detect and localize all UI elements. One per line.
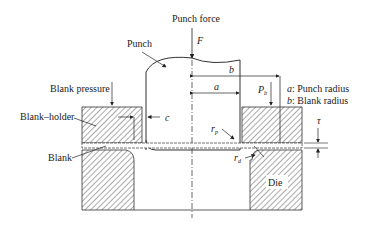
- die-label: Die: [268, 177, 283, 188]
- legend-item: b: Blank radius: [287, 95, 348, 106]
- thickness-label: τ: [317, 115, 321, 126]
- holder-pressure-label: Pb: [257, 84, 267, 96]
- blank-holder-label: Blank–holder: [20, 111, 75, 122]
- punch-radius-leader: [222, 129, 234, 139]
- force-symbol: F: [196, 35, 204, 46]
- dim-b-label: b: [229, 64, 234, 75]
- blank-holder-left: [82, 107, 142, 143]
- deep-drawing-diagram: Punch force F Punch Blank pressure Blank…: [0, 0, 366, 228]
- blank-label: Blank: [48, 152, 72, 163]
- die-radius-label: rd: [234, 152, 242, 164]
- legend: a: Punch radius b: Blank radius: [287, 83, 349, 106]
- punch-label: Punch: [127, 38, 152, 49]
- dim-a-label: a: [214, 81, 219, 92]
- blank-sheet: [82, 143, 302, 148]
- punch-radius-label: rp: [211, 123, 218, 135]
- blank-holder-right: [242, 107, 302, 143]
- punch: [146, 57, 240, 150]
- clearance-label: c: [165, 112, 170, 123]
- legend-item: a: Punch radius: [287, 83, 349, 94]
- die-left: [82, 150, 134, 210]
- punch-force-label: Punch force: [172, 13, 221, 24]
- blank-pressure-label: Blank pressure: [50, 83, 110, 94]
